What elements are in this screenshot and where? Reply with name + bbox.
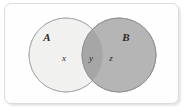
set-a-label: A [42,31,50,43]
region-label-x: x [61,53,66,63]
venn-canvas: A B x y z [0,0,187,112]
set-b-label: B [121,31,129,43]
region-label-y: y [88,53,93,63]
venn-diagram-figure: A B x y z [0,0,187,112]
region-label-z: z [108,53,113,63]
venn-svg: A B x y z [0,0,187,112]
